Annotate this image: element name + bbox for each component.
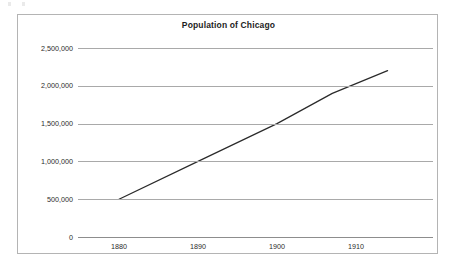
- gridline-2500000: [78, 48, 433, 49]
- x-axis-label: 1880: [89, 242, 149, 251]
- x-axis-label: 1900: [247, 242, 307, 251]
- gridline-0: [78, 237, 433, 238]
- y-axis-label: 2,500,000: [0, 44, 73, 53]
- y-axis-label: 500,000: [0, 195, 73, 204]
- y-axis-label: 1,000,000: [0, 157, 73, 166]
- y-axis-label: 0: [0, 233, 73, 242]
- data-series-population: [18, 15, 439, 255]
- scan-artifact: [8, 2, 11, 6]
- plot-area: 2,500,0002,000,0001,500,0001,000,000500,…: [18, 15, 439, 255]
- x-axis-label: 1890: [168, 242, 228, 251]
- gridline-500000: [78, 199, 433, 200]
- gridline-1000000: [78, 161, 433, 162]
- scan-artifact: [22, 2, 25, 6]
- gridline-1500000: [78, 124, 433, 125]
- chart-border: Population of Chicago 2,500,0002,000,000…: [17, 14, 438, 254]
- y-axis-label: 1,500,000: [0, 119, 73, 128]
- gridline-2000000: [78, 86, 433, 87]
- y-axis-label: 2,000,000: [0, 81, 73, 90]
- chart-figure: Population of Chicago 2,500,0002,000,000…: [0, 0, 452, 270]
- x-axis-label: 1910: [326, 242, 386, 251]
